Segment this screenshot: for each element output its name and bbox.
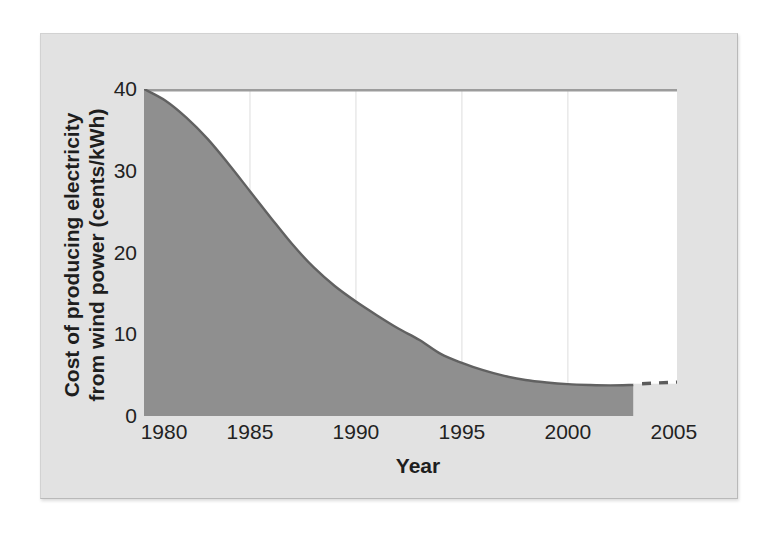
chart-panel: Cost of producing electricity from wind …: [40, 33, 738, 499]
x-axis-title: Year: [378, 454, 458, 478]
x-tick-label: 1990: [321, 420, 391, 444]
y-tick-label: 0: [77, 404, 137, 428]
beyond-data-mask: [634, 384, 677, 416]
y-tick-label: 40: [77, 77, 137, 101]
x-tick-label: 2005: [639, 420, 709, 444]
y-tick-label: 10: [77, 322, 137, 346]
x-tick-label: 1995: [427, 420, 497, 444]
x-tick-label: 2000: [533, 420, 603, 444]
figure-page: Cost of producing electricity from wind …: [0, 0, 780, 540]
x-tick-label: 1980: [129, 420, 199, 444]
y-tick-label: 30: [77, 159, 137, 183]
y-tick-label: 20: [77, 241, 137, 265]
x-tick-label: 1985: [215, 420, 285, 444]
wind-cost-area-chart: [144, 89, 677, 416]
plot-area: [144, 89, 677, 416]
